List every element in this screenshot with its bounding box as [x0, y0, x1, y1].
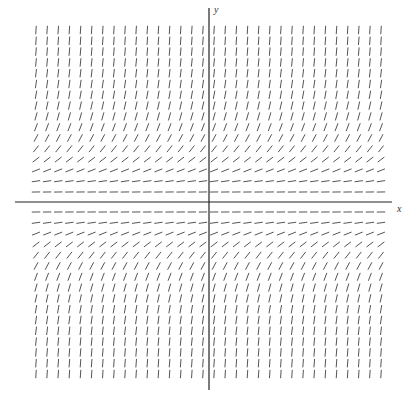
slope-segment — [280, 102, 282, 110]
slope-segment — [58, 26, 59, 34]
slope-segment — [358, 359, 359, 367]
slope-segment — [280, 294, 282, 302]
slope-segment — [325, 348, 326, 356]
slope-segment — [69, 80, 70, 88]
slope-segment — [336, 69, 337, 77]
slope-segment — [113, 284, 115, 292]
slope-segment — [210, 222, 218, 223]
slope-segment — [333, 242, 340, 247]
slope-segment — [80, 47, 81, 55]
slope-segment — [169, 294, 171, 302]
slope-segment — [89, 252, 94, 259]
slope-segment — [158, 102, 160, 110]
slope-segment — [366, 222, 374, 223]
slope-segment — [114, 37, 115, 45]
slope-segment — [102, 316, 103, 324]
slope-segment — [269, 284, 271, 292]
slope-segment — [69, 348, 70, 356]
slope-segment — [36, 69, 37, 77]
slope-segment — [55, 242, 62, 247]
slope-segment — [32, 222, 40, 223]
slope-segment — [225, 37, 226, 45]
slope-segment — [280, 58, 281, 66]
slope-segment — [147, 80, 148, 88]
slope-segment — [246, 134, 250, 141]
slope-segment — [179, 273, 182, 281]
slope-segment — [202, 305, 203, 313]
slope-segment — [346, 273, 349, 281]
slope-segment — [78, 146, 83, 153]
slope-segment — [269, 337, 270, 345]
slope-segment — [335, 134, 339, 141]
slope-field-plot — [0, 0, 416, 394]
slope-segment — [99, 181, 107, 182]
slope-segment — [99, 242, 106, 247]
slope-segment — [80, 359, 81, 367]
slope-segment — [110, 232, 118, 235]
slope-segment — [311, 157, 318, 162]
slope-segment — [169, 316, 170, 324]
slope-segment — [225, 370, 226, 378]
slope-segment — [358, 327, 359, 335]
slope-segment — [47, 370, 48, 378]
slope-segment — [169, 305, 170, 313]
slope-segment — [381, 69, 382, 77]
slope-segment — [80, 69, 81, 77]
slope-segment — [101, 123, 104, 131]
slope-segment — [188, 222, 196, 223]
slope-segment — [68, 102, 70, 110]
slope-segment — [91, 294, 93, 302]
slope-segment — [191, 47, 192, 55]
slope-segment — [91, 316, 92, 324]
slope-segment — [347, 305, 348, 313]
slope-segment — [303, 58, 304, 66]
slope-segment — [136, 327, 137, 335]
slope-segment — [201, 123, 204, 131]
slope-segment — [80, 26, 81, 34]
slope-segment — [267, 146, 272, 153]
slope-segment — [69, 69, 70, 77]
slope-segment — [169, 348, 170, 356]
slope-segment — [288, 181, 296, 182]
slope-segment — [323, 134, 327, 141]
slope-segment — [180, 305, 181, 313]
slope-segment — [368, 273, 371, 281]
slope-segment — [347, 26, 348, 34]
slope-segment — [299, 169, 307, 172]
slope-segment — [110, 169, 118, 172]
slope-segment — [356, 252, 361, 259]
slope-segment — [247, 80, 248, 88]
slope-segment — [101, 273, 104, 281]
slope-segment — [358, 112, 360, 120]
slope-segment — [58, 337, 59, 345]
slope-segment — [101, 134, 105, 141]
slope-segment — [33, 242, 40, 247]
slope-segment — [301, 146, 306, 153]
slope-segment — [280, 80, 281, 88]
slope-segment — [32, 169, 40, 172]
slope-segment — [380, 80, 381, 88]
slope-segment — [310, 232, 318, 235]
slope-segment — [279, 134, 283, 141]
slope-segment — [358, 294, 360, 302]
slope-segment — [325, 359, 326, 367]
slope-segment — [65, 232, 73, 235]
slope-segment — [314, 359, 315, 367]
slope-segment — [147, 91, 148, 99]
slope-segment — [247, 47, 248, 55]
slope-segment — [246, 112, 248, 120]
slope-segment — [358, 348, 359, 356]
slope-segment — [225, 69, 226, 77]
slope-segment — [132, 232, 140, 235]
slope-segment — [269, 58, 270, 66]
slope-segment — [369, 337, 370, 345]
slope-segment — [325, 327, 326, 335]
slope-segment — [325, 37, 326, 45]
slope-segment — [111, 252, 116, 259]
slope-segment — [36, 370, 37, 378]
slope-segment — [67, 262, 71, 269]
slope-segment — [335, 284, 337, 292]
slope-segment — [147, 359, 148, 367]
slope-segment — [124, 305, 125, 313]
slope-segment — [47, 47, 48, 55]
